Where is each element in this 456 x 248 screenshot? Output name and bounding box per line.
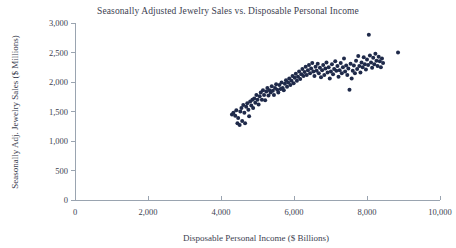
data-point xyxy=(258,94,262,98)
data-point xyxy=(347,88,351,92)
data-point xyxy=(328,76,332,80)
x-axis: 02,0004,0006,0008,00010,000 xyxy=(73,196,452,217)
data-point xyxy=(335,64,339,68)
data-point xyxy=(358,71,362,75)
data-point xyxy=(319,75,323,79)
chart-figure: Seasonally Adjusted Jewelry Sales vs. Di… xyxy=(0,0,456,248)
data-point xyxy=(316,62,320,66)
data-point xyxy=(324,61,328,65)
data-point-layer xyxy=(230,33,400,127)
data-point xyxy=(396,51,400,55)
data-point xyxy=(364,68,368,72)
data-point xyxy=(317,71,321,75)
y-axis-title: Seasonally Adj. Jewelry Sales ($ Million… xyxy=(10,35,20,188)
data-point xyxy=(367,33,371,37)
data-point xyxy=(247,114,251,118)
data-point xyxy=(312,74,316,78)
data-point xyxy=(337,75,341,79)
y-tick-label: 2,500 xyxy=(49,48,68,58)
data-point xyxy=(346,66,350,70)
data-point xyxy=(238,123,242,127)
data-point xyxy=(234,108,238,112)
data-point xyxy=(251,106,255,110)
data-point xyxy=(262,93,266,97)
x-axis-title: Disposable Personal Income ($ Billions) xyxy=(183,233,329,243)
x-tick-label: 4,000 xyxy=(211,207,230,217)
data-point xyxy=(298,77,302,81)
y-tick-label: 0 xyxy=(64,195,68,205)
data-point xyxy=(371,56,375,60)
x-tick-label: 2,000 xyxy=(138,207,157,217)
data-point xyxy=(282,88,286,92)
data-point xyxy=(322,73,326,77)
data-point xyxy=(353,71,357,75)
y-tick-label: 2,000 xyxy=(49,77,68,87)
data-point xyxy=(331,72,335,76)
data-point xyxy=(242,111,246,115)
data-point xyxy=(345,73,349,77)
data-point xyxy=(343,69,347,73)
data-point xyxy=(276,91,280,95)
data-point xyxy=(379,65,383,69)
data-point xyxy=(238,110,242,114)
data-point xyxy=(381,61,385,65)
data-point xyxy=(310,61,314,65)
data-point xyxy=(246,108,250,112)
data-point xyxy=(356,54,360,58)
data-point xyxy=(327,65,331,69)
y-tick-label: 1,000 xyxy=(49,136,68,146)
data-point xyxy=(352,63,356,67)
data-point xyxy=(354,59,358,63)
data-point xyxy=(380,56,384,60)
data-point xyxy=(243,121,247,125)
data-point xyxy=(236,116,240,120)
data-point xyxy=(321,63,325,67)
data-point xyxy=(365,58,369,62)
data-point xyxy=(339,61,343,65)
data-point xyxy=(292,81,296,85)
data-point xyxy=(330,62,334,66)
data-point xyxy=(333,59,337,63)
data-point xyxy=(272,93,276,97)
y-tick-label: 1,500 xyxy=(49,107,68,117)
scatter-plot: 05001,0001,5002,0002,5003,000 02,0004,00… xyxy=(0,0,456,248)
data-point xyxy=(362,55,366,59)
y-tick-label: 500 xyxy=(55,166,68,176)
data-point xyxy=(368,53,372,57)
x-tick-label: 0 xyxy=(73,207,77,217)
data-point xyxy=(370,66,374,70)
y-axis: 05001,0001,5002,0002,5003,000 xyxy=(49,18,75,205)
data-point xyxy=(342,56,346,60)
x-tick-label: 8,000 xyxy=(357,207,376,217)
data-point xyxy=(350,76,354,80)
data-point xyxy=(257,102,261,106)
x-tick-label: 10,000 xyxy=(428,207,451,217)
data-point xyxy=(373,52,377,56)
y-tick-label: 3,000 xyxy=(49,18,68,28)
data-point xyxy=(256,98,260,102)
data-point xyxy=(263,98,267,102)
x-tick-label: 6,000 xyxy=(284,207,303,217)
